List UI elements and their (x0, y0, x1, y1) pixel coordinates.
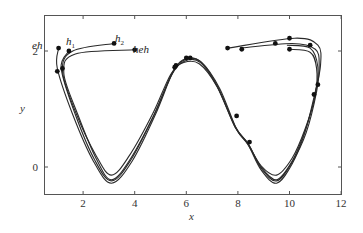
annotation-h1-sub: 1 (72, 42, 76, 50)
annotation-h2-sub: 2 (121, 39, 125, 47)
data-point-marker (55, 69, 60, 74)
chart-svg: 24681012 02 x y eh h1 h2 heh (0, 0, 363, 233)
curve-heh (64, 45, 318, 180)
curve-h1 (61, 43, 319, 180)
data-point-marker (315, 82, 320, 87)
x-tick-label: 12 (336, 197, 347, 209)
markers-group (55, 36, 320, 145)
x-axis-label: x (188, 210, 194, 222)
x-tick-label: 8 (235, 197, 241, 209)
x-tick-label: 2 (80, 197, 86, 209)
data-point-marker (312, 92, 317, 97)
data-point-marker (273, 41, 278, 46)
data-point-marker (308, 43, 313, 48)
x-tick-label: 6 (184, 197, 190, 209)
annotation-h2: h2 (115, 32, 125, 47)
data-point-marker (287, 47, 292, 52)
curve-h2 (62, 44, 317, 176)
data-point-marker (60, 66, 65, 71)
data-point-marker (234, 114, 239, 119)
data-point-marker (225, 46, 230, 51)
plot-frame (45, 16, 342, 195)
data-point-marker (239, 47, 244, 52)
x-tick-label: 10 (284, 197, 296, 209)
data-point-marker (174, 63, 179, 68)
data-point-marker (287, 36, 292, 41)
x-tick-label: 4 (132, 197, 138, 209)
curves-group (56, 38, 321, 183)
annotation-h1: h1 (66, 35, 76, 50)
annotation-eh: eh (32, 39, 43, 51)
data-point-marker (188, 56, 193, 61)
data-point-marker (56, 46, 61, 51)
y-axis-label: y (19, 102, 25, 114)
data-point-marker (247, 140, 252, 145)
annotation-heh: heh (133, 43, 149, 55)
y-tick-label: 0 (33, 161, 39, 173)
